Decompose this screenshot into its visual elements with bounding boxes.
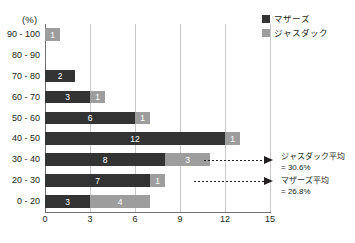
bar-value-label: 3 [65,198,70,207]
leader-arrow-jasdaq-icon [264,156,273,164]
bar-row: 50 - 6061 [45,108,270,129]
legend-item-mothers[interactable]: マザーズ [262,15,328,24]
y-axis-label-40-50: 40 - 50 [12,128,40,149]
annotation-mothers-mean-line2: = 26.8% [281,187,329,198]
x-tick-label-3: 3 [87,214,92,224]
x-tick-label-0: 0 [42,214,47,224]
x-axis-line [45,212,271,213]
bar-row: 0 - 2034 [45,191,270,212]
y-axis-label-30-40: 30 - 40 [12,149,40,170]
bar-row: 40 - 50121 [45,128,270,149]
bar-value-label: 3 [185,156,190,165]
bar-value-label: 1 [95,93,100,102]
x-tick-label-15: 15 [265,214,275,224]
leader-arrow-mothers-icon [264,177,273,185]
stacked-bar[interactable]: 61 [45,112,150,125]
bar-segment-mothers[interactable]: 8 [45,153,165,166]
bar-value-label: 1 [140,114,145,123]
y-axis-label-70-80: 70 - 80 [12,66,40,87]
bar-value-label: 1 [230,135,235,144]
bar-value-label: 8 [103,156,108,165]
bar-row: 70 - 802 [45,66,270,87]
bar-value-label: 3 [65,93,70,102]
y-axis-label-80-90: 80 - 90 [12,45,40,66]
stacked-bar[interactable]: 83 [45,153,210,166]
bar-segment-jasdaq[interactable]: 4 [90,195,150,208]
bar-segment-jasdaq[interactable]: 1 [45,28,60,41]
bar-row: 80 - 90 [45,45,270,66]
bar-segment-mothers[interactable]: 12 [45,132,225,145]
annotation-jasdaq-mean: ジャスダック平均 = 30.6% [281,152,345,174]
legend: マザーズ ジャスダック [262,15,328,37]
bar-row: 90 - 1001 [45,24,270,45]
y-axis-label-20-30: 20 - 30 [12,170,40,191]
bar-segment-mothers[interactable]: 7 [45,174,150,187]
legend-label-jasdaq: ジャスダック [274,29,328,38]
y-axis-label-50-60: 50 - 60 [12,108,40,129]
legend-swatch-icon-mothers [262,15,270,23]
stacked-bar[interactable]: 31 [45,91,105,104]
legend-item-jasdaq[interactable]: ジャスダック [262,29,328,38]
bar-value-label: 7 [95,177,100,186]
bar-segment-jasdaq[interactable]: 1 [90,91,105,104]
y-axis-label-60-70: 60 - 70 [12,87,40,108]
bar-value-label: 1 [50,31,55,40]
x-tick-label-6: 6 [132,214,137,224]
bar-value-label: 1 [155,177,160,186]
chart-root: (%) 90 - 100180 - 9070 - 80260 - 703150 … [0,0,355,243]
x-tick-label-12: 12 [220,214,230,224]
legend-label-mothers: マザーズ [274,15,310,24]
bar-segment-mothers[interactable]: 3 [45,91,90,104]
bar-value-label: 2 [58,72,63,81]
annotation-mothers-mean: マザーズ平均 = 26.8% [281,176,329,198]
plot-area: 90 - 100180 - 9070 - 80260 - 703150 - 60… [45,24,270,212]
bar-row: 60 - 7031 [45,87,270,108]
bar-value-label: 6 [88,114,93,123]
stacked-bar[interactable]: 121 [45,132,240,145]
x-tick-label-9: 9 [177,214,182,224]
leader-line-mothers [194,181,266,182]
bar-segment-mothers[interactable]: 2 [45,70,75,83]
stacked-bar[interactable]: 2 [45,70,75,83]
bar-segment-jasdaq[interactable]: 1 [150,174,165,187]
annotation-jasdaq-mean-line1: ジャスダック平均 [281,152,345,163]
leader-line-jasdaq [204,160,266,161]
y-axis-label-90-100: 90 - 100 [7,24,40,45]
legend-swatch-icon-jasdaq [262,29,270,37]
bar-segment-jasdaq[interactable]: 1 [135,112,150,125]
stacked-bar[interactable]: 1 [45,28,60,41]
bar-segment-mothers[interactable]: 3 [45,195,90,208]
bar-value-label: 12 [130,135,139,144]
annotation-mothers-mean-line1: マザーズ平均 [281,176,329,187]
bar-segment-mothers[interactable]: 6 [45,112,135,125]
annotation-jasdaq-mean-line2: = 30.6% [281,163,345,174]
stacked-bar[interactable]: 34 [45,195,150,208]
bar-value-label: 4 [118,198,123,207]
stacked-bar[interactable]: 71 [45,174,165,187]
y-axis-label-0-20: 0 - 20 [17,191,40,212]
bar-segment-jasdaq[interactable]: 1 [225,132,240,145]
